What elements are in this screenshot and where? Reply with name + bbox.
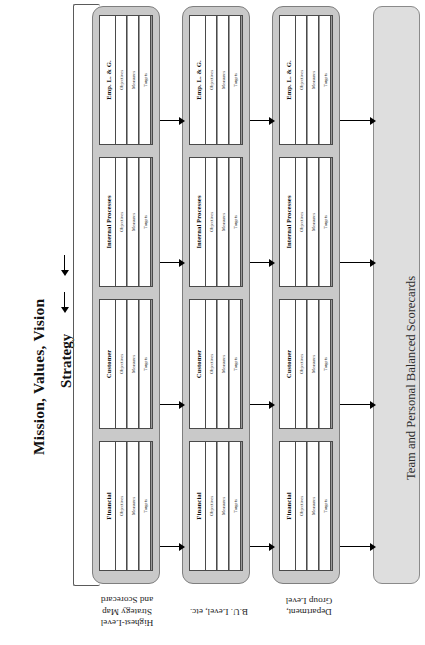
column-header-label: Targets	[143, 357, 148, 371]
column-header-label: Measures	[221, 497, 226, 515]
perspective-label: Internal Processes	[194, 195, 201, 248]
perspective-label: Customer	[194, 350, 201, 379]
column-header-label: Measures	[221, 213, 226, 231]
caption-level-business-unit: B.U. Level, etc.	[180, 606, 258, 617]
arrow-mission-to-strategy	[64, 292, 65, 308]
scorecard-column-header: Targets	[320, 300, 331, 428]
arrow-highest-to-bu	[160, 262, 180, 263]
scorecard-perspective-title: Customer	[100, 300, 116, 428]
column-header-label: Targets	[323, 499, 328, 513]
column-header-label: Measures	[311, 213, 316, 231]
scorecard-column-header: Initiatives	[332, 16, 333, 144]
arrow-bu-to-department	[250, 262, 270, 263]
column-header-label: Measures	[311, 71, 316, 89]
column-header-label: Targets	[143, 73, 148, 87]
scorecard-column-header: Measures	[128, 158, 139, 286]
scorecard-card[interactable]: CustomerObjectivesMeasuresTargetsInitiat…	[279, 299, 333, 429]
scorecard-perspective-title: Internal Processes	[190, 158, 206, 286]
perspective-label: Emp. L. & G.	[104, 60, 111, 100]
scorecard-column-header: Measures	[218, 300, 229, 428]
scorecard-column-header: Measures	[218, 442, 229, 570]
scorecard-card[interactable]: CustomerObjectivesMeasuresTargetsInitiat…	[189, 299, 243, 429]
scorecard-column-header: Objectives	[116, 158, 127, 286]
column-header-label: Objectives	[119, 212, 124, 232]
scorecard-column-header: Measures	[308, 442, 319, 570]
column-header-label: Targets	[233, 499, 238, 513]
scorecard-column-header: Targets	[140, 300, 151, 428]
scorecard-column-header: Targets	[230, 300, 241, 428]
scorecard-column-header: Objectives	[296, 442, 307, 570]
column-header-label: Objectives	[299, 70, 304, 90]
scorecard-column-header: Initiatives	[242, 158, 243, 286]
scorecard-card[interactable]: Internal ProcessesObjectivesMeasuresTarg…	[189, 157, 243, 287]
column-header-label: Objectives	[209, 212, 214, 232]
arrow-bu-to-department	[250, 404, 270, 405]
column-header-label: Objectives	[119, 70, 124, 90]
scorecard-perspective-title: Emp. L. & G.	[190, 16, 206, 144]
scorecard-column-header: Targets	[140, 442, 151, 570]
scorecard-column-header: Initiatives	[332, 442, 333, 570]
column-header-label: Objectives	[299, 212, 304, 232]
scorecard-perspective-title: Internal Processes	[100, 158, 116, 286]
perspective-label: Internal Processes	[104, 195, 111, 248]
scorecard-card[interactable]: Emp. L. & G.ObjectivesMeasuresTargetsIni…	[189, 15, 243, 145]
column-header-label: Objectives	[209, 354, 214, 374]
scorecard-column-header: Objectives	[296, 158, 307, 286]
scorecard-column-header: Objectives	[116, 442, 127, 570]
column-header-label: Objectives	[209, 496, 214, 516]
mission-values-vision-label: Mission, Values, Vision	[30, 299, 48, 455]
caption-level-department: Department, Group Level	[266, 594, 352, 617]
column-header-label: Targets	[323, 215, 328, 229]
column-header-label: Targets	[323, 73, 328, 87]
scorecard-column-header: Initiatives	[332, 300, 333, 428]
column-header-label: Measures	[131, 213, 136, 231]
scorecard-column-header: Measures	[308, 158, 319, 286]
scorecard-card[interactable]: Internal ProcessesObjectivesMeasuresTarg…	[99, 157, 153, 287]
scorecard-perspective-title: Emp. L. & G.	[280, 16, 296, 144]
column-header-label: Measures	[311, 355, 316, 373]
column-header-label: Objectives	[299, 354, 304, 374]
scorecard-perspective-title: Emp. L. & G.	[100, 16, 116, 144]
perspective-label: Customer	[284, 350, 291, 379]
perspective-label: Financial	[104, 492, 111, 519]
scorecard-column-header: Targets	[320, 158, 331, 286]
column-header-label: Measures	[131, 355, 136, 373]
arrow-department-to-team	[340, 404, 371, 405]
scorecard-card[interactable]: Emp. L. & G.ObjectivesMeasuresTargetsIni…	[279, 15, 333, 145]
scorecard-column-header: Initiatives	[152, 300, 153, 428]
scorecard-card[interactable]: FinancialObjectivesMeasuresTargetsInitia…	[279, 441, 333, 571]
column-header-label: Measures	[131, 497, 136, 515]
team-personal-scorecards-label: Team and Personal Balanced Scorecards	[404, 276, 419, 480]
scorecard-column-header: Measures	[218, 158, 229, 286]
scorecard-perspective-title: Internal Processes	[280, 158, 296, 286]
perspective-label: Financial	[194, 492, 201, 519]
level-panel-department: Emp. L. & G.ObjectivesMeasuresTargetsIni…	[272, 6, 340, 584]
scorecard-column-header: Initiatives	[152, 16, 153, 144]
scorecard-column-header: Initiatives	[152, 442, 153, 570]
column-header-label: Targets	[233, 357, 238, 371]
arrow-strategy-to-scorecards	[64, 255, 65, 271]
scorecard-column-header: Objectives	[116, 16, 127, 144]
column-header-label: Objectives	[209, 70, 214, 90]
scorecard-column-header: Targets	[230, 442, 241, 570]
arrow-highest-to-bu	[160, 404, 180, 405]
scorecard-column-header: Targets	[140, 158, 151, 286]
scorecard-card[interactable]: CustomerObjectivesMeasuresTargetsInitiat…	[99, 299, 153, 429]
diagram-canvas: Mission, Values, Vision Strategy Emp. L.…	[0, 0, 425, 645]
arrow-highest-to-bu	[160, 546, 180, 547]
perspective-label: Customer	[104, 350, 111, 379]
scorecard-column-header: Targets	[320, 16, 331, 144]
column-header-label: Measures	[131, 71, 136, 89]
scorecard-card[interactable]: FinancialObjectivesMeasuresTargetsInitia…	[99, 441, 153, 571]
perspective-label: Emp. L. & G.	[194, 60, 201, 100]
scorecard-card[interactable]: Emp. L. & G.ObjectivesMeasuresTargetsIni…	[99, 15, 153, 145]
arrow-highest-to-bu	[160, 120, 180, 121]
scorecard-column-header: Objectives	[206, 300, 217, 428]
level-panel-business-unit: Emp. L. & G.ObjectivesMeasuresTargetsIni…	[182, 6, 250, 584]
scorecard-column-header: Measures	[308, 16, 319, 144]
scorecard-card[interactable]: FinancialObjectivesMeasuresTargetsInitia…	[189, 441, 243, 571]
scorecard-perspective-title: Financial	[100, 442, 116, 570]
scorecard-perspective-title: Customer	[280, 300, 296, 428]
scorecard-column-header: Targets	[230, 16, 241, 144]
scorecard-card[interactable]: Internal ProcessesObjectivesMeasuresTarg…	[279, 157, 333, 287]
